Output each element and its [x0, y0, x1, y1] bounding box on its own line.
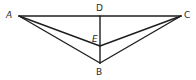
triangle-diagram: A C D E B [0, 0, 196, 80]
label-e: E [92, 34, 98, 44]
segment-ec [100, 16, 181, 46]
segment-ae [19, 16, 100, 46]
label-b: B [96, 67, 102, 77]
segment-ab [19, 16, 100, 63]
label-a: A [5, 10, 12, 20]
label-d: D [96, 3, 103, 13]
label-c: C [184, 10, 190, 20]
segment-bc [100, 16, 181, 63]
